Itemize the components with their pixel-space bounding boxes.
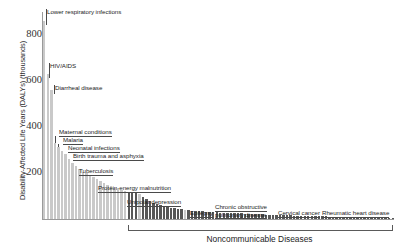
callout-leader-line [46, 9, 47, 25]
bar [54, 143, 56, 219]
bar [367, 218, 369, 219]
callout-text: Birth trauma and asphyxia [73, 153, 144, 161]
callout-text: Unipolar depression [127, 199, 181, 207]
bar [166, 207, 168, 219]
bar [392, 218, 394, 219]
bar [68, 159, 70, 219]
bar [268, 215, 270, 219]
bar-callout-label: Cervical cancer [278, 210, 320, 218]
bar [170, 208, 172, 219]
bar [117, 189, 119, 219]
bar [370, 218, 372, 219]
callout-text: Diarrheal disease [55, 85, 102, 92]
bar [374, 218, 376, 219]
callout-text: Epilepsy [190, 210, 213, 218]
bar [75, 166, 77, 219]
noncommunicable-bracket-label: Noncommunicable Diseases [128, 234, 391, 244]
bar-callout-label: Tuberculosis [79, 168, 113, 176]
bar [57, 147, 59, 219]
callout-leader-line [55, 136, 56, 143]
bar [82, 172, 84, 219]
bar-plot-area [43, 12, 395, 219]
y-tick-label: 600 [12, 75, 42, 86]
bar-callout-label: Protein-energy malnutrition [98, 185, 171, 193]
bar [61, 151, 63, 219]
bar [177, 209, 179, 219]
bar [89, 175, 91, 219]
bar-callout-label: Diarrheal disease [55, 85, 102, 92]
bar-callout-label: Chronic obstructivepulmonary disease [215, 204, 267, 219]
y-axis-ticks: 200400600800 [8, 0, 42, 252]
bar [180, 209, 182, 219]
callout-text: Tuberculosis [79, 168, 113, 176]
callout-text: Lower respiratory infections [47, 9, 121, 16]
bar [360, 217, 362, 219]
bar [64, 154, 66, 219]
bar [173, 208, 175, 219]
bar [120, 190, 122, 219]
bar [184, 210, 186, 219]
callout-text: HIV/AIDS [50, 63, 76, 70]
bar [363, 217, 365, 219]
bar [356, 217, 358, 219]
callout-leader-line [49, 63, 50, 78]
bar [384, 218, 386, 219]
bar [163, 206, 165, 219]
chart-root: Disability-Affected Life Years (DALYs) (… [0, 0, 406, 252]
y-tick-label: 400 [12, 121, 42, 132]
bar-callout-label: Rheumatic heart disease [322, 210, 389, 218]
bar [377, 218, 379, 219]
bar-callout-label: Epilepsy [190, 210, 213, 218]
bar [272, 215, 274, 219]
bar [159, 205, 161, 219]
bar [47, 74, 49, 219]
bar [43, 21, 45, 219]
bar [388, 218, 390, 219]
bar [381, 218, 383, 219]
bar [50, 90, 52, 219]
callout-text: Protein-energy malnutrition [98, 185, 171, 193]
callout-text: Cervical cancer [278, 210, 320, 218]
bar [85, 173, 87, 219]
callout-text: pulmonary disease [215, 212, 266, 220]
bar [78, 169, 80, 219]
bar-callout-label: Unipolar depression [127, 199, 181, 207]
y-tick-label: 800 [12, 29, 42, 40]
bar [92, 177, 94, 219]
callout-leader-line [54, 85, 55, 94]
bar-callout-label: Birth trauma and asphyxia [73, 153, 144, 161]
bar [71, 163, 73, 219]
bar-callout-label: HIV/AIDS [50, 63, 76, 70]
callout-text: Rheumatic heart disease [322, 210, 389, 218]
noncommunicable-bracket [128, 225, 393, 231]
callout-leader-line [58, 144, 59, 147]
y-tick-label: 200 [12, 167, 42, 178]
bar-callout-label: Lower respiratory infections [47, 9, 121, 16]
